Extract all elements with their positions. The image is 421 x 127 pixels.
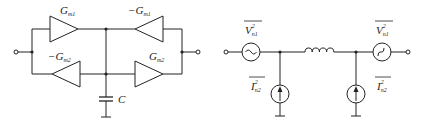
sine-wave-icon: [246, 50, 257, 54]
label-vn1-left: V2n1: [245, 23, 258, 37]
label-neg-gm1: −Gm1: [128, 4, 151, 17]
label-gm2: Gm2: [149, 50, 164, 63]
transconductor-neg-gm1-icon: [135, 16, 163, 42]
noise-equivalent-circuit: V2n1 V2n1 I2n2 I2n2: [224, 21, 410, 116]
label-in2-right: I2n2: [376, 79, 387, 93]
label-in2-left: I2n2: [250, 79, 261, 93]
label-neg-gm2: −Gm2: [48, 50, 71, 63]
transconductor-gm1-icon: [50, 16, 78, 42]
arrow-up-icon: [278, 86, 283, 92]
gyrator-c-circuit: Gm1 −Gm1 −Gm2 Gm2 C: [14, 4, 200, 117]
inductor-icon: [305, 48, 334, 52]
left-input-terminal: [14, 50, 18, 54]
circuit-diagrams: Gm1 −Gm1 −Gm2 Gm2 C: [0, 0, 421, 127]
sine-wave-icon: [378, 48, 384, 56]
output-terminal: [406, 50, 410, 54]
label-vn1-right: V2n1: [376, 23, 389, 37]
label-gm1: Gm1: [60, 4, 75, 17]
transconductor-gm2-icon: [135, 61, 163, 87]
transconductor-neg-gm2-icon: [52, 61, 80, 87]
arrow-up-icon: [354, 86, 359, 92]
label-capacitor: C: [118, 93, 126, 105]
diagram-svg: Gm1 −Gm1 −Gm2 Gm2 C: [0, 0, 421, 127]
right-output-terminal: [196, 50, 200, 54]
input-terminal: [224, 50, 228, 54]
